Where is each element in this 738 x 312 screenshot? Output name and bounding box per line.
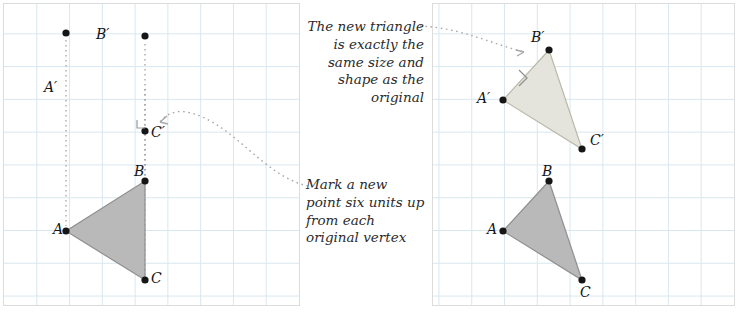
annotation-mark-point: Mark a new point six units up from each …: [306, 176, 426, 247]
label-B-left: B: [134, 163, 144, 179]
label-B-right: B: [542, 163, 552, 179]
panel-right-grid: [432, 3, 735, 306]
label-C-prime-left: C′: [151, 124, 165, 140]
label-C-prime-right: C′: [590, 132, 604, 148]
figure-canvas: A B C A′ B′ C′ A B C A′ B′ C′ Mark a new…: [0, 0, 738, 312]
label-A-prime-right: A′: [477, 90, 490, 106]
label-B-prime-right: B′: [531, 29, 544, 45]
label-A-right: A: [487, 221, 497, 237]
label-B-prime-left: B′: [96, 26, 109, 42]
label-C-left: C: [151, 270, 162, 286]
label-A-prime-left: A′: [44, 79, 57, 95]
label-A-left: A: [53, 221, 63, 237]
grid-lines-left: [4, 4, 299, 305]
label-C-right: C: [580, 284, 591, 300]
grid-lines-right: [433, 4, 734, 305]
panel-left-grid: [3, 3, 300, 306]
annotation-same-size: The new triangle is exactly the same siz…: [306, 18, 424, 107]
